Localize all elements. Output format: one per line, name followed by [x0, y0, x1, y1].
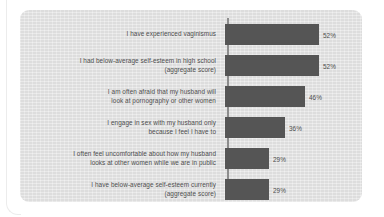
bar-category-label: I am often afraid that my husband will l…	[20, 88, 222, 105]
bar-category-label: I engage in sex with my husband only bec…	[20, 119, 222, 136]
bar-track: 36%	[222, 117, 362, 138]
bar-category-label: I often feel uncomfortable about how my …	[20, 150, 222, 167]
page-corner-curve	[6, 196, 21, 215]
bar-fill[interactable]	[225, 86, 305, 107]
chart-panel: I have experienced vaginismus 52% I had …	[20, 10, 362, 202]
page-gutter-line	[6, 0, 7, 204]
bar-value-label: 52%	[323, 62, 336, 69]
bar-chart-plot-area: I have experienced vaginismus 52% I had …	[20, 10, 362, 202]
bar-category-label: I have below-average self-esteem current…	[20, 181, 222, 198]
bar-value-label: 52%	[323, 31, 336, 38]
bar-track: 52%	[222, 24, 362, 45]
bar-value-label: 29%	[273, 186, 286, 193]
bar-fill[interactable]	[225, 24, 319, 45]
bar-value-label: 29%	[273, 155, 286, 162]
bar-category-label: I have experienced vaginismus	[20, 30, 222, 38]
bar-value-label: 36%	[289, 124, 302, 131]
bar-category-label: I had below-average self-esteem in high …	[20, 57, 222, 74]
bar-row: I have experienced vaginismus 52%	[20, 24, 362, 45]
bar-row: I have below-average self-esteem current…	[20, 179, 362, 200]
bar-fill[interactable]	[225, 148, 269, 169]
bar-track: 29%	[222, 179, 362, 200]
bar-fill[interactable]	[225, 117, 285, 138]
bar-fill[interactable]	[225, 55, 319, 76]
bar-row: I engage in sex with my husband only bec…	[20, 117, 362, 138]
bar-fill[interactable]	[225, 179, 269, 200]
bar-track: 46%	[222, 86, 362, 107]
bar-track: 52%	[222, 55, 362, 76]
bar-row: I am often afraid that my husband will l…	[20, 86, 362, 107]
bar-value-label: 46%	[309, 93, 322, 100]
bar-track: 29%	[222, 148, 362, 169]
bar-row: I often feel uncomfortable about how my …	[20, 148, 362, 169]
bar-row: I had below-average self-esteem in high …	[20, 55, 362, 76]
